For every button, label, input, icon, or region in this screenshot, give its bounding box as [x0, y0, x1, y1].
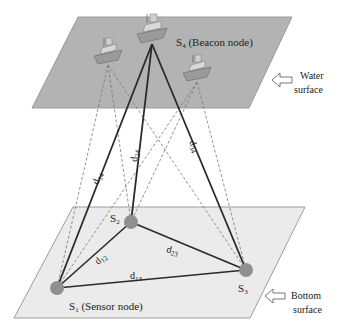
water-surface-callout: Water surface — [272, 70, 324, 95]
bottom-surface-plane — [14, 207, 305, 318]
svg-text:Water: Water — [300, 70, 324, 81]
localization-diagram: S4 (Beacon node) Water surface Bottom su… — [0, 0, 341, 332]
svg-text:Bottom: Bottom — [291, 290, 321, 301]
sensor-node-s3 — [239, 263, 253, 277]
arrow-left-icon — [265, 289, 285, 303]
beacon-node-label: S4 (Beacon node) — [176, 36, 253, 50]
svg-text:surface: surface — [294, 84, 323, 95]
arrow-left-icon — [272, 73, 292, 87]
svg-text:surface: surface — [293, 304, 322, 315]
s1-label: S1 (Sensor node) — [69, 300, 143, 314]
d34-label: d34 — [185, 138, 202, 155]
bottom-surface-callout: Bottom surface — [265, 289, 322, 315]
sensor-node-s2 — [124, 215, 138, 229]
d14-label: d14 — [90, 170, 107, 186]
sensor-node-s1 — [50, 281, 64, 295]
d24-label: d24 — [128, 149, 142, 163]
